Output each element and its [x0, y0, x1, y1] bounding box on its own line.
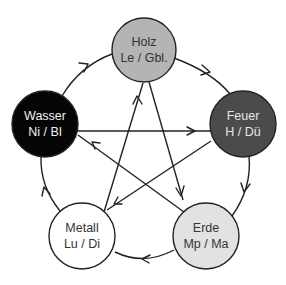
node-wasser: Wasser Ni / Bl: [12, 91, 78, 157]
edge-metall-wasser: [41, 157, 60, 211]
node-holz: Holz Le / Gbl.: [112, 18, 176, 82]
node-metall: Metall Lu / Di: [49, 203, 115, 269]
node-metall-circle: [49, 203, 115, 269]
node-holz-sub: Le / Gbl.: [120, 51, 167, 65]
node-erde-label: Erde: [193, 221, 219, 235]
node-metall-sub: Lu / Di: [64, 237, 100, 251]
edge-wasser-holz: [62, 54, 112, 96]
node-erde-circle: [173, 203, 239, 269]
edge-feuer-erde: [232, 156, 249, 216]
node-wasser-label: Wasser: [24, 109, 66, 123]
controlling-cycle: [78, 82, 211, 212]
node-feuer-sub: H / Dü: [225, 125, 260, 139]
node-wasser-sub: Ni / Bl: [28, 125, 61, 139]
node-holz-label: Holz: [131, 35, 156, 49]
edge-holz-erde: [149, 82, 183, 200]
five-elements-diagram: Holz Le / Gbl. Feuer H / Dü Erde Mp / Ma…: [0, 0, 286, 285]
node-holz-circle: [112, 18, 176, 82]
node-erde: Erde Mp / Ma: [173, 203, 239, 269]
node-feuer: Feuer H / Dü: [210, 91, 276, 157]
node-feuer-circle: [210, 91, 276, 157]
arrow-holz-feuer-icon: [201, 65, 210, 75]
node-wasser-circle: [12, 91, 78, 157]
node-feuer-label: Feuer: [227, 109, 260, 123]
node-erde-sub: Mp / Ma: [183, 237, 228, 251]
edge-metall-holz: [104, 83, 143, 212]
edge-holz-feuer: [174, 58, 230, 94]
node-metall-label: Metall: [65, 221, 98, 235]
